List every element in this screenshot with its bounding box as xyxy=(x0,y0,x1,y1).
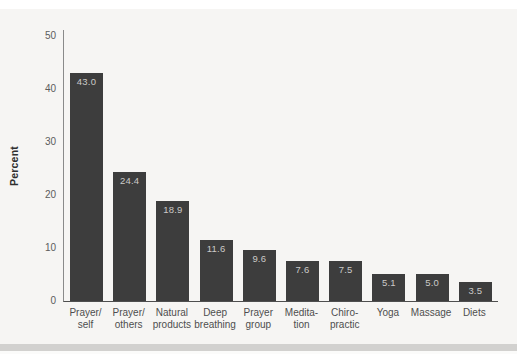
y-tick-label: 40 xyxy=(26,83,56,95)
bar-value-label: 9.6 xyxy=(243,250,276,264)
bar: 7.6 xyxy=(286,261,319,301)
scanned-page-background: Percent 43.024.418.911.69.67.67.55.15.03… xyxy=(0,0,517,354)
bar: 5.0 xyxy=(416,274,449,301)
page-top-margin xyxy=(0,0,517,9)
bar-value-label: 5.1 xyxy=(372,274,405,288)
bar: 43.0 xyxy=(70,73,103,301)
y-tick-label: 30 xyxy=(26,136,56,148)
bar: 9.6 xyxy=(243,250,276,301)
y-tick-label: 10 xyxy=(26,242,56,254)
y-tick-label: 0 xyxy=(26,295,56,307)
y-axis-title: Percent xyxy=(8,126,20,206)
bar-value-label: 7.6 xyxy=(286,261,319,275)
y-tick-label: 50 xyxy=(26,30,56,42)
bar: 11.6 xyxy=(200,240,233,301)
bar: 5.1 xyxy=(372,274,405,301)
bar-value-label: 24.4 xyxy=(113,172,146,186)
bar-value-label: 7.5 xyxy=(329,261,362,275)
bar-value-label: 18.9 xyxy=(156,201,189,215)
category-label: Diets xyxy=(443,307,505,319)
bar: 18.9 xyxy=(156,201,189,301)
bar-chart-plot-area: 43.024.418.911.69.67.67.55.15.03.5 xyxy=(63,30,498,302)
bar-value-label: 43.0 xyxy=(70,73,103,87)
bar-value-label: 11.6 xyxy=(200,240,233,254)
bar: 7.5 xyxy=(329,261,362,301)
bar: 24.4 xyxy=(113,172,146,301)
y-tick-label: 20 xyxy=(26,189,56,201)
page-bottom-band xyxy=(0,344,517,351)
bar: 3.5 xyxy=(459,282,492,301)
bar-value-label: 3.5 xyxy=(459,282,492,296)
bar-value-label: 5.0 xyxy=(416,274,449,288)
